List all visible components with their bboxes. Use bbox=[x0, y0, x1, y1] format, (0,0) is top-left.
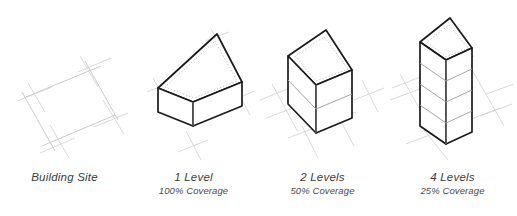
massing-diagram: Building Site bbox=[0, 0, 517, 216]
panel-two-levels: 2 Levels 50% Coverage bbox=[258, 0, 387, 216]
caption-title: Building Site bbox=[0, 170, 129, 184]
caption-four-levels: 4 Levels 25% Coverage bbox=[388, 170, 517, 197]
caption-subtitle: 50% Coverage bbox=[258, 184, 387, 197]
panel-building-site: Building Site bbox=[0, 0, 129, 216]
figure-one-level bbox=[129, 8, 258, 166]
figure-four-levels bbox=[388, 8, 517, 166]
caption-two-levels: 2 Levels 50% Coverage bbox=[258, 170, 387, 197]
panel-four-levels: 4 Levels 25% Coverage bbox=[388, 0, 517, 216]
caption-title: 1 Level bbox=[129, 170, 258, 184]
figure-building-site bbox=[0, 8, 129, 166]
caption-subtitle: 100% Coverage bbox=[129, 184, 258, 197]
massing-block-2-levels bbox=[288, 30, 352, 133]
caption-subtitle: 25% Coverage bbox=[388, 184, 517, 197]
panel-one-level: 1 Level 100% Coverage bbox=[129, 0, 258, 216]
caption-title: 4 Levels bbox=[388, 170, 517, 184]
caption-one-level: 1 Level 100% Coverage bbox=[129, 170, 258, 197]
caption-title: 2 Levels bbox=[258, 170, 387, 184]
massing-block-4-levels bbox=[420, 18, 472, 144]
site-grid bbox=[17, 56, 128, 158]
caption-building-site: Building Site bbox=[0, 170, 129, 184]
figure-two-levels bbox=[258, 8, 387, 166]
massing-block-1-level bbox=[158, 34, 242, 126]
